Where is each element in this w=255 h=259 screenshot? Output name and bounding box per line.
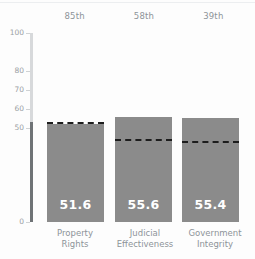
plot-area: 100 80 70 60 50 0 51.6 55.6 55.4 (0, 0, 255, 259)
reference-line-judicial-effectiveness (115, 139, 172, 141)
category-label-judicial-effectiveness: Judicial Effectiveness (110, 228, 180, 250)
bar-value-government-integrity: 55.4 (182, 197, 239, 212)
y-tick-label-0: 0 (0, 218, 24, 226)
y-tick-mark-0 (26, 222, 30, 223)
y-tick-mark-80 (26, 71, 30, 72)
y-tick-label-50: 50 (0, 124, 24, 132)
category-label-property-rights: Property Rights (40, 228, 110, 250)
bar-value-property-rights: 51.6 (47, 197, 104, 212)
y-tick-label-80: 80 (0, 67, 24, 75)
bar-chart: 85th 58th 39th 100 80 70 60 50 0 51.6 55… (0, 0, 255, 259)
category-label-row: Property Rights Judicial Effectiveness G… (40, 228, 250, 250)
reference-line-government-integrity (182, 141, 239, 143)
category-label-line-2: Effectiveness (110, 239, 180, 250)
category-label-line-2: Integrity (180, 239, 250, 250)
category-label-line-1: Judicial (110, 228, 180, 239)
category-label-line-2: Rights (40, 239, 110, 250)
y-tick-label-100: 100 (0, 29, 24, 37)
y-tick-mark-50 (26, 128, 30, 129)
reference-line-property-rights (47, 122, 104, 124)
y-tick-mark-70 (26, 90, 30, 91)
bar-value-judicial-effectiveness: 55.6 (115, 197, 172, 212)
y-axis-spine-upper (30, 33, 33, 122)
y-tick-label-60: 60 (0, 105, 24, 113)
y-tick-mark-100 (26, 33, 30, 34)
y-axis-spine-lower (30, 122, 33, 222)
y-tick-mark-60 (26, 109, 30, 110)
category-label-line-1: Property (40, 228, 110, 239)
category-label-government-integrity: Government Integrity (180, 228, 250, 250)
category-label-line-1: Government (180, 228, 250, 239)
y-tick-label-70: 70 (0, 86, 24, 94)
